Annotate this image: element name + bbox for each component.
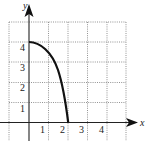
x-axis-label: x — [139, 117, 145, 128]
y-tick-3: 3 — [20, 62, 25, 73]
x-tick-2: 2 — [60, 124, 65, 135]
x-tick-3: 3 — [79, 124, 84, 135]
y-tick-1: 1 — [20, 103, 25, 114]
y-axis-label: y — [22, 0, 28, 11]
y-tick-2: 2 — [20, 82, 25, 93]
axes — [0, 10, 133, 141]
chart: y x 4 3 2 1 1 2 3 4 — [0, 0, 145, 141]
grid — [9, 22, 126, 141]
x-tick-1: 1 — [40, 124, 45, 135]
y-tick-4: 4 — [20, 42, 25, 53]
x-tick-4: 4 — [99, 124, 104, 135]
